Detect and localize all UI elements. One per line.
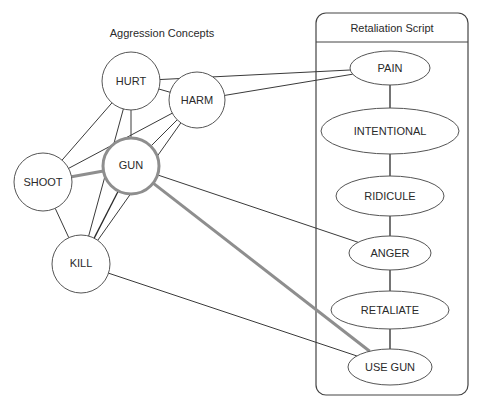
script-node-pain[interactable]: PAIN (350, 51, 430, 85)
concept-node-gun-label: GUN (119, 159, 144, 171)
concept-node-shoot[interactable]: SHOOT (14, 153, 72, 211)
script-node-retaliate[interactable]: RETALIATE (331, 291, 449, 329)
concept-node-kill-label: KILL (70, 257, 93, 269)
script-node-ridicule[interactable]: RIDICULE (336, 176, 444, 216)
concept-node-harm-label: HARM (181, 94, 213, 106)
edge-shoot-gun (72, 171, 104, 177)
script-node-intentional-label: INTENTIONAL (354, 125, 427, 137)
aggression-retaliation-diagram: Retaliation Script Aggression Concepts H… (0, 0, 481, 410)
script-node-anger[interactable]: ANGER (349, 236, 431, 270)
concept-node-hurt[interactable]: HURT (102, 52, 160, 110)
script-node-use-gun[interactable]: USE GUN (348, 349, 432, 385)
concept-node-gun[interactable]: GUN (103, 138, 159, 194)
edge-hurt-harm (159, 89, 170, 92)
aggression-concepts-title: Aggression Concepts (110, 27, 215, 39)
script-node-ridicule-label: RIDICULE (364, 190, 415, 202)
aggression-concept-nodes: HURT HARM SHOOT GUN KILL (14, 52, 225, 293)
edge-hurt-shoot (62, 103, 112, 160)
concept-node-kill[interactable]: KILL (52, 235, 110, 293)
script-node-use-gun-label: USE GUN (365, 361, 415, 373)
concept-node-shoot-label: SHOOT (23, 176, 62, 188)
concept-node-harm[interactable]: HARM (169, 72, 225, 128)
retaliation-script-title: Retaliation Script (350, 22, 433, 34)
concept-node-hurt-label: HURT (116, 75, 147, 87)
script-node-anger-label: ANGER (370, 247, 409, 259)
script-node-retaliate-label: RETALIATE (361, 304, 419, 316)
edge-shoot-kill (55, 208, 69, 237)
script-node-pain-label: PAIN (378, 62, 403, 74)
edge-gun-kill (94, 191, 118, 238)
script-node-intentional[interactable]: INTENTIONAL (321, 108, 459, 154)
